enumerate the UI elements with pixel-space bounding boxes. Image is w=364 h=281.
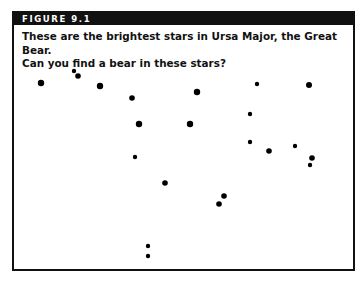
star-dot [194,89,200,95]
star-dot [129,95,135,101]
star-dot [221,193,227,199]
star-dot [187,121,193,127]
star-dot [266,148,272,154]
star-dot [136,121,142,127]
star-dot [248,140,252,144]
star-dot [38,80,44,86]
star-dot [255,82,259,86]
star-dot [308,163,312,167]
star-dot [162,180,168,186]
star-dot [309,155,315,161]
star-dot [146,244,150,248]
star-dot [306,82,312,88]
star-dot [72,69,76,73]
star-dot [75,73,81,79]
star-dot [97,83,103,89]
star-field [0,0,364,281]
star-dot [133,155,137,159]
star-dot [248,112,252,116]
star-dot [293,144,297,148]
star-dot [216,201,222,207]
star-dot [146,254,150,258]
